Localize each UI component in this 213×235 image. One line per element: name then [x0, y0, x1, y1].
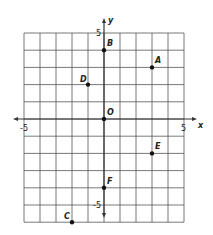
x-axis-left-arrow-icon	[13, 117, 18, 121]
point-label: O	[107, 108, 114, 117]
points: ABCDEFO	[64, 39, 161, 224]
y-axis-down-arrow-icon	[102, 213, 106, 218]
x-tick-pos5: 5	[181, 124, 186, 133]
x-tick-neg5: -5	[20, 124, 28, 133]
point-dot-icon	[102, 48, 106, 52]
point-label: F	[107, 177, 113, 186]
y-axis-label: y	[108, 16, 114, 25]
point-dot-icon	[70, 220, 74, 224]
point-label: A	[154, 56, 161, 65]
x-axis-right-arrow-icon	[192, 117, 197, 121]
x-axis-label: x	[197, 121, 204, 130]
y-tick-neg5: -5	[93, 201, 101, 210]
point-label: D	[80, 75, 87, 84]
y-tick-pos5: 5	[96, 29, 101, 38]
point-dot-icon	[150, 65, 154, 69]
coordinate-plane: x y -5 5 5 -5 ABCDEFO	[0, 0, 213, 235]
point-dot-icon	[150, 151, 154, 155]
point-label: B	[107, 39, 113, 48]
point-label: E	[155, 142, 161, 151]
point-dot-icon	[102, 186, 106, 190]
point-label: C	[64, 212, 70, 221]
y-axis-up-arrow-icon	[102, 18, 106, 23]
point-dot-icon	[102, 117, 106, 121]
